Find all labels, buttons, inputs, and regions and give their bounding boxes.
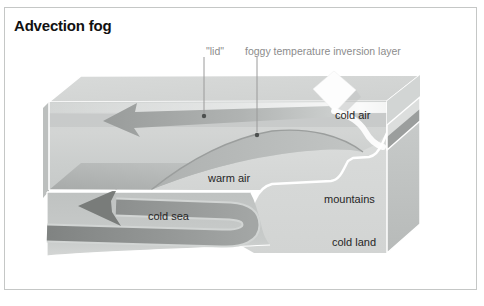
box-left-edge-face	[43, 102, 49, 198]
cold-air-label: cold air	[335, 109, 371, 121]
box-top-face	[49, 75, 420, 102]
cold-sea-label: cold sea	[148, 210, 190, 222]
cold-land-label: cold land	[332, 236, 376, 248]
warm-air-label: warm air	[207, 172, 251, 184]
inversion-marker-dot	[255, 133, 259, 137]
page-title: Advection fog	[14, 17, 111, 34]
mountains-label: mountains	[324, 193, 375, 205]
lid-label: "lid"	[206, 45, 224, 57]
inversion-layer-label: foggy temperature inversion layer	[245, 45, 401, 57]
box-front-bottom-edge	[49, 190, 252, 191]
advection-fog-diagram: Advection fog "lid" foggy tempera	[0, 0, 484, 306]
lid-marker-dot	[202, 114, 206, 118]
